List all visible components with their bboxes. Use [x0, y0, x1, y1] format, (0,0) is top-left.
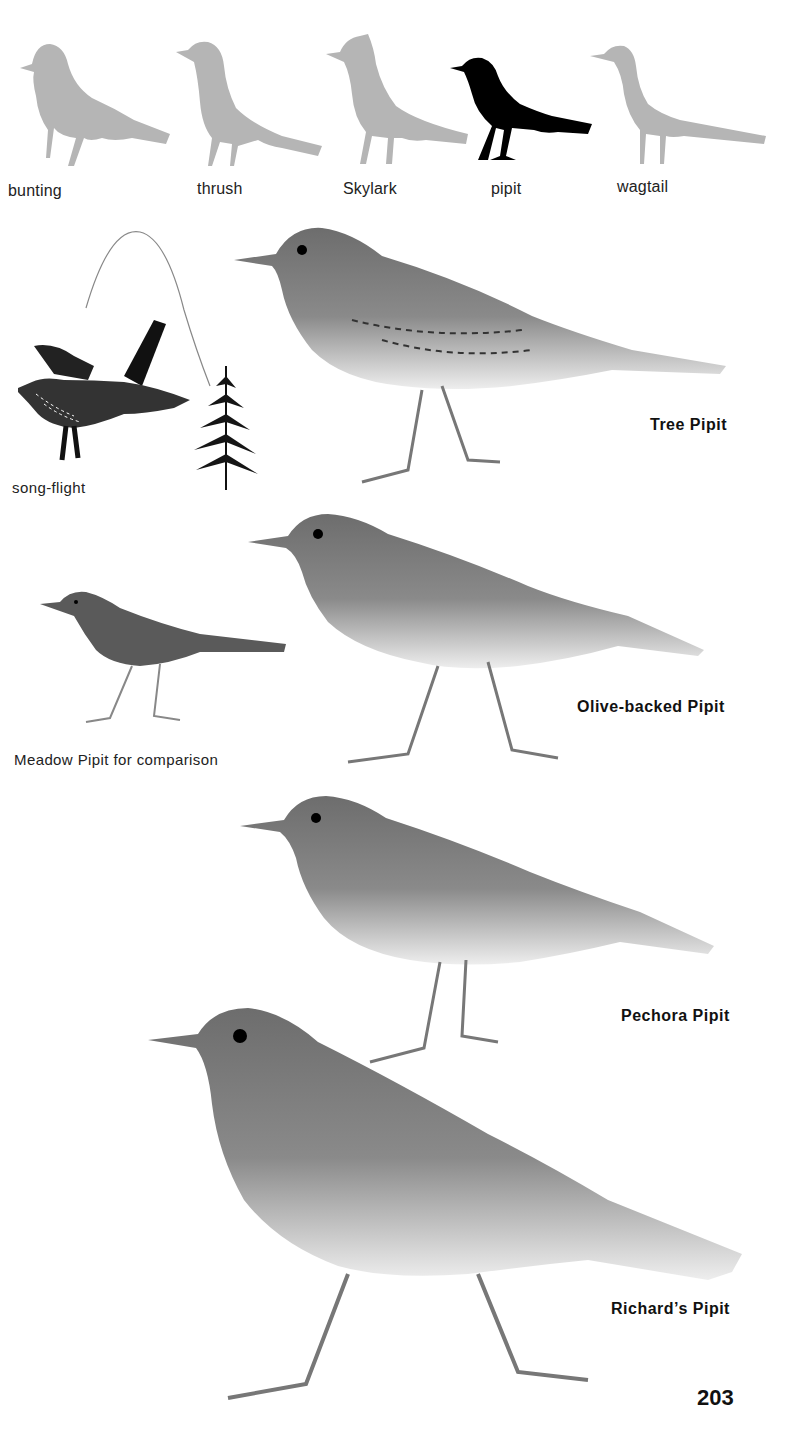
species-label-richards-pipit: Richard’s Pipit: [611, 1300, 730, 1318]
richards-pipit-illustration-icon: [148, 1004, 748, 1414]
species-label-tree-pipit: Tree Pipit: [650, 416, 727, 434]
page-number: 203: [697, 1385, 734, 1411]
species-label-olive-backed-pipit: Olive-backed Pipit: [577, 698, 725, 716]
olive-backed-pipit-illustration-icon: [248, 510, 710, 772]
song-flight-caption: song-flight: [12, 479, 86, 496]
tree-pipit-illustration-icon: [232, 220, 732, 495]
song-flight-bird-icon: [14, 316, 194, 466]
meadow-pipit-caption: Meadow Pipit for comparison: [14, 751, 218, 768]
